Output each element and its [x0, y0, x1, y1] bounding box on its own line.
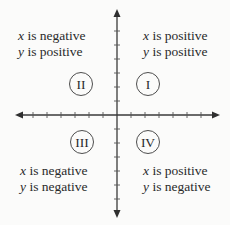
quadrant-i-y-label: y is positive [141, 44, 208, 59]
quadrant-i: I x is positive y is positive [137, 28, 208, 96]
quadrant-iii-y-label: y is negative [18, 179, 87, 194]
coordinate-plane-diagram: I x is positive y is positive II x is ne… [0, 0, 230, 225]
arrow-down-icon [114, 210, 121, 218]
quadrant-i-numeral: I [146, 77, 151, 92]
quadrant-iii-x-label: x is negative [19, 163, 87, 178]
quadrant-ii-x-label: x is negative [17, 28, 85, 43]
quadrant-iv: IV x is positive y is negative [137, 131, 211, 195]
quadrant-ii-y-label: y is positive [16, 44, 83, 59]
quadrant-iv-y-label: y is negative [141, 179, 210, 194]
arrow-up-icon [114, 9, 121, 17]
arrow-right-icon [212, 112, 220, 119]
quadrant-ii: II x is negative y is positive [16, 28, 93, 96]
quadrant-i-x-label: x is positive [142, 28, 208, 43]
arrow-left-icon [15, 112, 23, 119]
quadrant-iv-x-label: x is positive [142, 163, 208, 178]
quadrant-iv-numeral: IV [141, 135, 155, 150]
quadrant-iii-numeral: III [75, 135, 89, 150]
quadrant-iii: III x is negative y is negative [18, 131, 94, 195]
quadrant-ii-numeral: II [77, 77, 86, 92]
